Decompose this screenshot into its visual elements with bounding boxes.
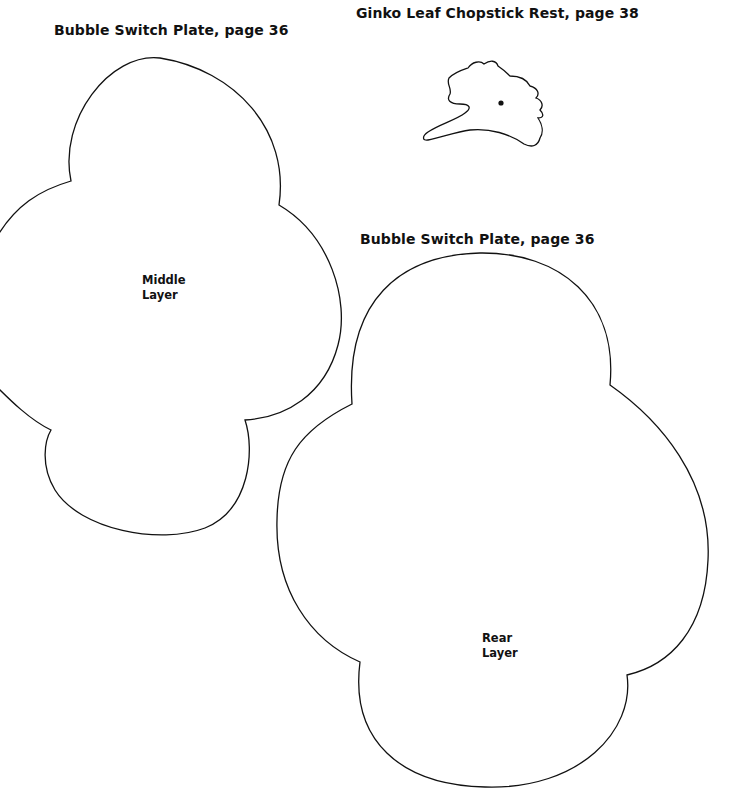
ginko-title: Ginko Leaf Chopstick Rest, page 38 xyxy=(356,5,639,21)
rear-layer-outline xyxy=(277,253,708,787)
rear-layer-label: Rear Layer xyxy=(482,631,518,661)
rear-layer-label-line2: Layer xyxy=(482,646,518,661)
middle-layer-label: Middle Layer xyxy=(142,273,186,303)
rear-layer-label-line1: Rear xyxy=(482,631,518,646)
rear-layer-title: Bubble Switch Plate, page 36 xyxy=(360,231,595,247)
ginko-hole-dot xyxy=(498,100,503,105)
middle-layer-label-line1: Middle xyxy=(142,273,186,288)
ginko-leaf-outline xyxy=(424,61,543,146)
middle-layer-label-line2: Layer xyxy=(142,288,186,303)
middle-layer-title: Bubble Switch Plate, page 36 xyxy=(54,22,289,38)
template-sheet xyxy=(0,0,740,799)
